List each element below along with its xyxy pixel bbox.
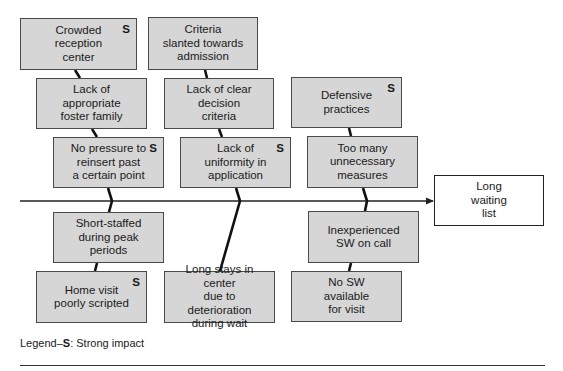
cause-box-too-many: Too many unnecessary measures (307, 136, 418, 188)
box-label: Defensive practices (321, 89, 372, 116)
strong-impact-badge: S (276, 142, 284, 156)
bone-line (75, 70, 80, 78)
bone-line (363, 188, 367, 211)
cause-box-no-pressure: No pressure to reinsert past a certain p… (53, 137, 164, 188)
strong-impact-badge: S (149, 142, 157, 156)
box-label: Short-staffed during peak periods (76, 217, 142, 258)
cause-box-crowded: Crowded reception centerS (20, 18, 137, 70)
box-label: Long stays in center due to deterioratio… (171, 263, 268, 331)
box-label: Lack of uniformity in application (205, 142, 267, 183)
bone-line (349, 128, 351, 136)
cause-box-long-stays: Long stays in center due to deterioratio… (164, 271, 275, 323)
strong-impact-badge: S (387, 82, 395, 96)
cause-box-lack-decision: Lack of clear decision criteria (164, 78, 274, 129)
box-label: Lack of clear decision criteria (186, 83, 251, 124)
cause-box-criteria: Criteria slanted towards admission (148, 17, 258, 70)
box-label: Lack of appropriate foster family (61, 83, 123, 124)
box-label: Crowded reception center (55, 24, 102, 65)
box-label: Home visit poorly scripted (54, 284, 129, 311)
bone-line (349, 263, 351, 271)
bone-line (219, 129, 222, 137)
box-label: Long waiting list (471, 180, 507, 221)
cause-box-home-visit: Home visit poorly scriptedS (36, 271, 147, 323)
cause-box-lack-foster: Lack of appropriate foster family (36, 78, 147, 129)
cause-box-short-staffed: Short-staffed during peak periods (53, 212, 164, 263)
strong-impact-badge: S (122, 23, 130, 37)
box-label: Inexperienced SW on call (327, 224, 399, 251)
bone-line (92, 129, 97, 137)
box-label: Criteria slanted towards admission (163, 23, 244, 64)
cause-box-no-sw: No SW available for visit (291, 271, 402, 322)
bone-line (108, 188, 112, 212)
bone-line (205, 70, 207, 78)
box-label: No SW available for visit (324, 276, 369, 317)
fishbone-diagram: Crowded reception centerSCriteria slante… (0, 0, 563, 371)
box-label: No pressure to reinsert past a certain p… (71, 142, 146, 183)
bone-line (95, 263, 97, 271)
bottom-rule (20, 365, 545, 366)
box-label: Too many unnecessary measures (330, 142, 395, 183)
cause-box-lack-uniform: Lack of uniformity in applicationS (180, 137, 291, 188)
cause-box-inexperienced: Inexperienced SW on call (308, 211, 419, 263)
strong-impact-badge: S (132, 276, 140, 290)
legend-text: : Strong impact (70, 337, 144, 349)
legend-prefix: Legend– (20, 337, 63, 349)
cause-box-defensive: Defensive practicesS (291, 77, 402, 128)
legend: Legend–S: Strong impact (20, 337, 144, 349)
effect-box: Long waiting list (434, 175, 544, 226)
